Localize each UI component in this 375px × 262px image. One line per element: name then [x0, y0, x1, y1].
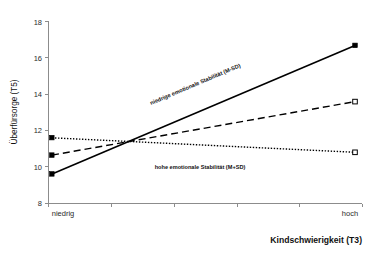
y-tick-label-8: 8 — [38, 199, 42, 208]
series-marker-mid-stability-left — [50, 153, 55, 158]
y-tick-label-18: 18 — [34, 18, 42, 27]
series-marker-high-stability-right — [353, 150, 358, 155]
y-axis-title: Überfürsorge (T5) — [9, 79, 19, 144]
series-marker-mid-stability-right — [353, 99, 358, 104]
x-tick-label-hoch: hoch — [342, 209, 358, 218]
line-chart: 18 16 14 12 10 8 niedrig hoch Überfürsor… — [0, 0, 375, 262]
annotation-high-stability: hohe emotionale Stabilität (M+SD) — [155, 164, 246, 170]
y-tick-label-10: 10 — [34, 163, 42, 172]
y-tick-label-12: 12 — [34, 126, 42, 135]
x-tick-label-niedrig: niedrig — [52, 209, 75, 218]
series-marker-low-stability-right — [353, 43, 358, 48]
chart-container: 18 16 14 12 10 8 niedrig hoch Überfürsor… — [0, 0, 375, 262]
series-marker-high-stability-left — [50, 135, 55, 140]
x-axis-title: Kindschwierigkeit (T3) — [270, 235, 362, 245]
y-tick-label-14: 14 — [34, 90, 42, 99]
y-tick-label-16: 16 — [34, 54, 42, 63]
series-marker-low-stability-left — [50, 172, 55, 177]
